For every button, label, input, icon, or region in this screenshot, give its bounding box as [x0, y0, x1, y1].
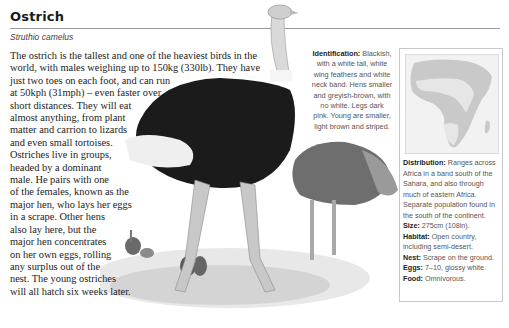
body-line: on her own eggs, rolling: [10, 249, 260, 261]
nest-fact: Nest: Scrape on the ground.: [403, 253, 501, 264]
body-line: major hen concentrates: [10, 236, 260, 248]
body-line: short distances. They will eat: [10, 100, 260, 112]
body-line: just two toes on each foot, and can run: [10, 75, 260, 87]
size-fact: Size: 275cm (108in).: [403, 221, 501, 232]
body-line: male. He pairs with one: [10, 174, 260, 186]
distribution-map: [405, 54, 499, 154]
species-name: Struthio camelus: [10, 32, 73, 42]
page-title: Ostrich: [10, 9, 64, 24]
body-line: in a scrape. Other hens: [10, 211, 260, 223]
body-line: matter and carrion to lizards: [10, 124, 260, 136]
distribution-fact: Distribution: Ranges across: [403, 158, 501, 169]
body-line: nest. The young ostriches: [10, 273, 260, 285]
body-line: The ostrich is the tallest and one of th…: [10, 50, 260, 62]
body-line: at 50kph (31mph) – even faster over: [10, 87, 260, 99]
facts-panel: Distribution: Ranges across Africa in a …: [399, 48, 503, 302]
body-line: also lay here, but the: [10, 224, 260, 236]
title-rule: [10, 28, 500, 29]
eggs-fact: Eggs: 7–10, glossy white.: [403, 263, 501, 274]
body-line: Ostriches live in groups,: [10, 149, 260, 161]
body-line: almost anything, from plant: [10, 112, 260, 124]
body-line: will all hatch six weeks later.: [10, 286, 260, 298]
body-line: major hen, who lays her eggs: [10, 199, 260, 211]
body-line: any surplus out of the: [10, 261, 260, 273]
habitat-fact: Habitat: Open country,: [403, 232, 501, 243]
identification-label: Identification:: [312, 49, 360, 58]
body-paragraph: The ostrich is the tallest and one of th…: [10, 50, 260, 298]
food-fact: Food: Omnivorous.: [403, 274, 501, 285]
body-line: and even small tortoises.: [10, 137, 260, 149]
body-line: of the females, known as the: [10, 186, 260, 198]
africa-map-icon: [406, 55, 498, 153]
identification-caption: Identification: Blackish, with a white t…: [300, 49, 404, 132]
body-line: headed by a dominant: [10, 162, 260, 174]
facts-list: Distribution: Ranges across Africa in a …: [403, 158, 501, 284]
body-line: world, with males weighing up to 150kg (…: [10, 62, 260, 74]
